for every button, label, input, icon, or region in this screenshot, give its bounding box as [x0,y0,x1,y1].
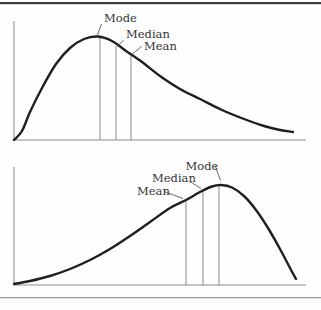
median-label: Median [152,171,196,185]
mode-label: Mode [104,11,137,25]
mode-leader-line [98,24,102,35]
skewed-distributions-figure: ModeMedianMeanModeMedianMean [0,0,321,310]
distribution-curve [14,185,296,284]
mean-label: Mean [144,39,177,53]
mean-label: Mean [137,184,170,198]
mean-leader-line [131,47,142,56]
left-skewed-distribution: ModeMedianMean [14,159,306,285]
distribution-charts-canvas: ModeMedianMeanModeMedianMean [0,0,321,310]
bottom-rule [0,297,321,299]
right-skewed-distribution: ModeMedianMean [14,11,306,140]
